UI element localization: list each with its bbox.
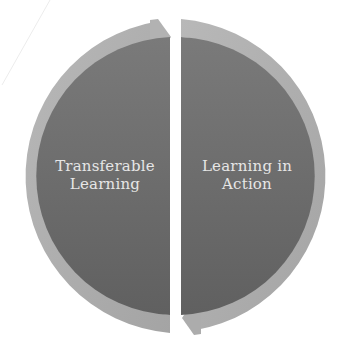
label-line: Learning in <box>187 157 307 175</box>
segment-label-learning-in-action: Learning in Action <box>187 157 307 193</box>
segment-label-transferable-learning: Transferable Learning <box>45 157 165 193</box>
label-line: Learning <box>45 175 165 193</box>
label-line: Action <box>187 175 307 193</box>
label-line: Transferable <box>45 157 165 175</box>
decorative-line <box>2 0 50 85</box>
cycle-diagram: Transferable Learning Learning in Action <box>0 0 349 353</box>
